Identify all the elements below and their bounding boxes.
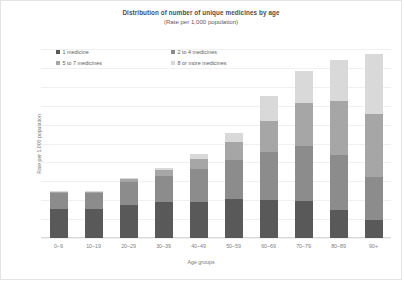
bar-segment[interactable] [295, 146, 313, 201]
bar-segment[interactable] [50, 209, 68, 238]
gridline [41, 238, 391, 239]
x-axis-tick-label: 90+ [369, 243, 378, 249]
bar-segment[interactable] [225, 142, 243, 160]
x-axis-tick-label: 30–39 [156, 243, 171, 249]
bar-segment[interactable] [365, 54, 383, 114]
bar-column[interactable]: 80–89 [321, 49, 356, 238]
bar-segment[interactable] [330, 155, 348, 210]
stacked-bar[interactable] [225, 133, 243, 238]
bar-column[interactable]: 10–19 [76, 49, 111, 238]
bar-column[interactable]: 50–59 [216, 49, 251, 238]
chart-subtitle: (Rate per 1,000 population) [1, 17, 401, 27]
bar-column[interactable]: 60–69 [251, 49, 286, 238]
stacked-bar[interactable] [120, 178, 138, 238]
bar-segment[interactable] [225, 160, 243, 200]
bar-segment[interactable] [155, 176, 173, 202]
x-axis-tick-label: 50–59 [226, 243, 241, 249]
bar-column[interactable]: 40–49 [181, 49, 216, 238]
bar-segment[interactable] [330, 210, 348, 238]
bar-segment[interactable] [225, 133, 243, 142]
x-axis-tick-label: 80–89 [331, 243, 346, 249]
stacked-bar[interactable] [190, 154, 208, 238]
bar-segment[interactable] [260, 200, 278, 238]
bar-segment[interactable] [295, 103, 313, 146]
bar-segment[interactable] [260, 121, 278, 152]
chart-container: Distribution of number of unique medicin… [0, 0, 402, 280]
stacked-bar[interactable] [260, 96, 278, 238]
bar-segment[interactable] [190, 159, 208, 169]
bar-column[interactable]: 70–79 [286, 49, 321, 238]
bar-segment[interactable] [85, 193, 103, 209]
bar-segment[interactable] [260, 152, 278, 200]
stacked-bar[interactable] [85, 191, 103, 238]
x-axis-tick-label: 20–29 [121, 243, 136, 249]
bar-segment[interactable] [330, 101, 348, 155]
x-axis-tick-label: 70–79 [296, 243, 311, 249]
bar-column[interactable]: 20–29 [111, 49, 146, 238]
page-title: Distribution of number of unique medicin… [1, 8, 401, 17]
stacked-bar[interactable] [330, 60, 348, 238]
bar-column[interactable]: 0–9 [41, 49, 76, 238]
bar-segment[interactable] [260, 96, 278, 121]
bar-segment[interactable] [85, 209, 103, 238]
bar-segment[interactable] [120, 182, 138, 205]
bar-segment[interactable] [295, 201, 313, 238]
bar-segment[interactable] [365, 177, 383, 220]
bar-segment[interactable] [190, 169, 208, 202]
bar-column[interactable]: 30–39 [146, 49, 181, 238]
bar-segment[interactable] [50, 193, 68, 209]
bar-column[interactable]: 90+ [356, 49, 391, 238]
bar-segment[interactable] [365, 220, 383, 238]
bar-series-group: 0–910–1920–2930–3940–4950–5960–6970–7980… [41, 49, 391, 238]
x-axis-tick-label: 60–69 [261, 243, 276, 249]
stacked-bar[interactable] [295, 71, 313, 238]
x-axis-tick-label: 10–19 [86, 243, 101, 249]
bar-segment[interactable] [120, 205, 138, 238]
bar-segment[interactable] [365, 114, 383, 176]
bar-segment[interactable] [295, 71, 313, 103]
stacked-bar[interactable] [155, 168, 173, 238]
stacked-bar[interactable] [50, 191, 68, 238]
bar-segment[interactable] [155, 202, 173, 238]
bar-segment[interactable] [330, 60, 348, 101]
title-block: Distribution of number of unique medicin… [1, 8, 401, 27]
stacked-bar[interactable] [365, 54, 383, 238]
bar-segment[interactable] [225, 199, 243, 238]
x-axis-tick-label: 40–49 [191, 243, 206, 249]
plot-area: 01002003004005006007008009001,000 Rate p… [41, 49, 391, 238]
bar-segment[interactable] [190, 202, 208, 238]
x-axis-label: Age groups [1, 259, 401, 265]
x-axis-tick-label: 0–9 [54, 243, 63, 249]
